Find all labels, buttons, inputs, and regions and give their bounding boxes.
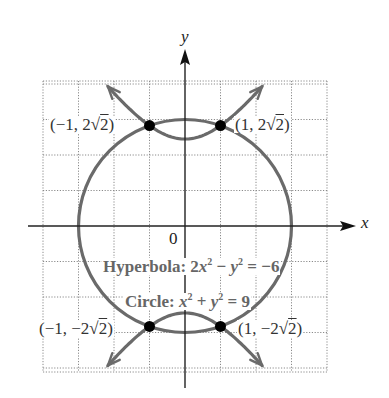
hyperbola-var-y: y	[231, 257, 239, 276]
intersection-point-top-left	[144, 120, 155, 131]
y-axis-label: y	[181, 28, 189, 45]
circle-label-prefix: Circle:	[125, 292, 179, 311]
hyperbola-rhs: = −6	[243, 257, 279, 276]
point-label-bottom-right: (1, −2√2)	[237, 320, 303, 337]
point-label-top-left: (−1, 2√2)	[49, 116, 115, 133]
diagram-canvas: y x 0 Hyperbola: 2x2 − y2 = −6 Circle: x…	[0, 0, 389, 398]
hyperbola-coef: 2	[190, 257, 199, 276]
circle-equation-label: Circle: x2 + y2 = 9	[124, 293, 251, 310]
origin-label: 0	[169, 230, 178, 247]
point-label-text: (−1, −2√	[39, 319, 99, 338]
point-label-text: (−1, 2√	[50, 115, 100, 134]
radicand: 2	[288, 319, 297, 338]
point-label-close: )	[109, 115, 115, 134]
circle-rhs: = 9	[223, 292, 250, 311]
radicand: 2	[100, 115, 109, 134]
radicand: 2	[99, 319, 108, 338]
hyperbola-label-prefix: Hyperbola:	[103, 257, 190, 276]
point-label-close: )	[284, 115, 290, 134]
point-label-top-right: (1, 2√2)	[234, 116, 291, 133]
intersection-point-bottom-left	[144, 321, 155, 332]
radicand: 2	[276, 115, 285, 134]
point-label-close: )	[297, 319, 303, 338]
coordinate-plane	[0, 0, 389, 398]
point-label-bottom-left: (−1, −2√2)	[38, 320, 114, 337]
x-axis-label: x	[361, 214, 369, 231]
hyperbola-minus: −	[212, 257, 230, 276]
point-label-text: (1, −2√	[238, 319, 288, 338]
circle-plus: +	[192, 292, 210, 311]
hyperbola-equation-label: Hyperbola: 2x2 − y2 = −6	[102, 258, 280, 275]
intersection-point-top-right	[215, 120, 226, 131]
point-label-close: )	[107, 319, 113, 338]
point-label-text: (1, 2√	[235, 115, 276, 134]
intersection-point-bottom-right	[215, 321, 226, 332]
